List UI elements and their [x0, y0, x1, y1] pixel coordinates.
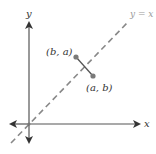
- origin-point: [28, 123, 31, 126]
- point-a-b-label: (a, b): [86, 82, 113, 93]
- x-axis-label: x: [144, 118, 150, 129]
- y-axis-label: y: [25, 8, 32, 19]
- reflection-diagram: y x y = x (b, a) (a, b): [0, 0, 156, 154]
- point-b-a: [73, 54, 78, 59]
- point-a-b: [90, 73, 95, 78]
- point-b-a-label: (b, a): [46, 46, 73, 57]
- line-label: y = x: [129, 9, 153, 19]
